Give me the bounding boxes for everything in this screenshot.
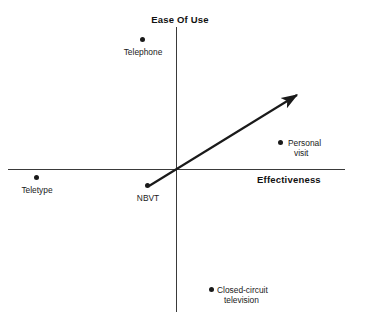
y-axis-title: Ease Of Use <box>0 14 366 25</box>
y-axis-line <box>176 27 177 312</box>
data-label-teletype: Teletype <box>7 185 67 195</box>
data-point-personal-visit <box>278 140 283 145</box>
data-label-personal-visit-line2: visit <box>294 148 308 158</box>
data-label-nbvt: NBVT <box>118 193 178 203</box>
data-label-personal-visit-line1: Personal <box>288 138 321 148</box>
data-point-telephone <box>140 37 145 42</box>
trend-arrow <box>0 0 372 322</box>
data-label-closed-circuit-line1: Closed-circuit <box>217 285 268 295</box>
data-label-closed-circuit-line2: television <box>224 295 259 305</box>
data-point-teletype <box>34 175 39 180</box>
data-point-nbvt <box>145 183 150 188</box>
data-label-telephone: Telephone <box>113 47 173 57</box>
data-point-closed-circuit-television <box>209 287 214 292</box>
x-axis-title: Effectiveness <box>257 174 321 185</box>
chart-canvas: Ease Of Use Effectiveness Telephone Tele… <box>0 0 372 322</box>
